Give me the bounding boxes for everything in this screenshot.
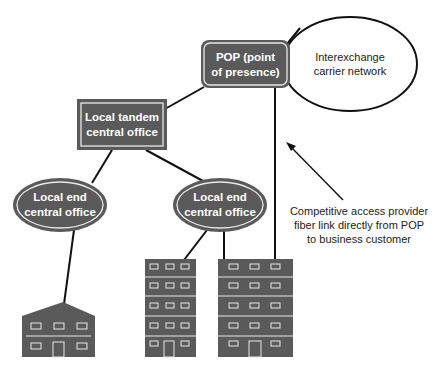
- end-right-label-line1: Local end: [193, 191, 247, 203]
- local-end-office-right: Local end central office: [173, 178, 267, 232]
- network-diagram: Interexchange carrier network POP (point…: [0, 0, 433, 372]
- link-end-right-office1: [184, 230, 207, 260]
- interexchange-label-line1: Interexchange: [315, 51, 385, 63]
- pop-label-line2: of presence): [211, 66, 280, 78]
- end-left-label-line2: central office: [24, 206, 96, 218]
- tandem-label-line2: central office: [86, 126, 158, 138]
- link-end-left-house: [64, 230, 74, 304]
- local-tandem-node: Local tandem central office: [77, 99, 167, 150]
- link-tandem-pop: [165, 87, 204, 109]
- link-tandem-end-right: [146, 150, 203, 181]
- annotation-line3: to business customer: [307, 233, 411, 245]
- interexchange-carrier-network: Interexchange carrier network: [283, 17, 417, 111]
- end-left-label-line1: Local end: [33, 191, 87, 203]
- local-end-office-left: Local end central office: [13, 178, 107, 232]
- pop-node: POP (point of presence): [201, 40, 290, 88]
- house-icon: [22, 302, 95, 357]
- pop-label-line1: POP (point: [216, 51, 275, 63]
- tandem-label-line1: Local tandem: [85, 111, 159, 123]
- office-building-icon: [145, 259, 196, 357]
- link-tandem-end-left: [92, 150, 112, 183]
- annotation-text: Competitive access provider fiber link d…: [290, 205, 429, 245]
- interexchange-label-line2: carrier network: [314, 65, 387, 77]
- annotation-line2: fiber link directly from POP: [294, 219, 424, 231]
- office-building-icon: [218, 259, 293, 357]
- annotation-arrow-icon: [286, 142, 343, 200]
- annotation-line1: Competitive access provider: [290, 205, 429, 217]
- end-right-label-line2: central office: [184, 206, 256, 218]
